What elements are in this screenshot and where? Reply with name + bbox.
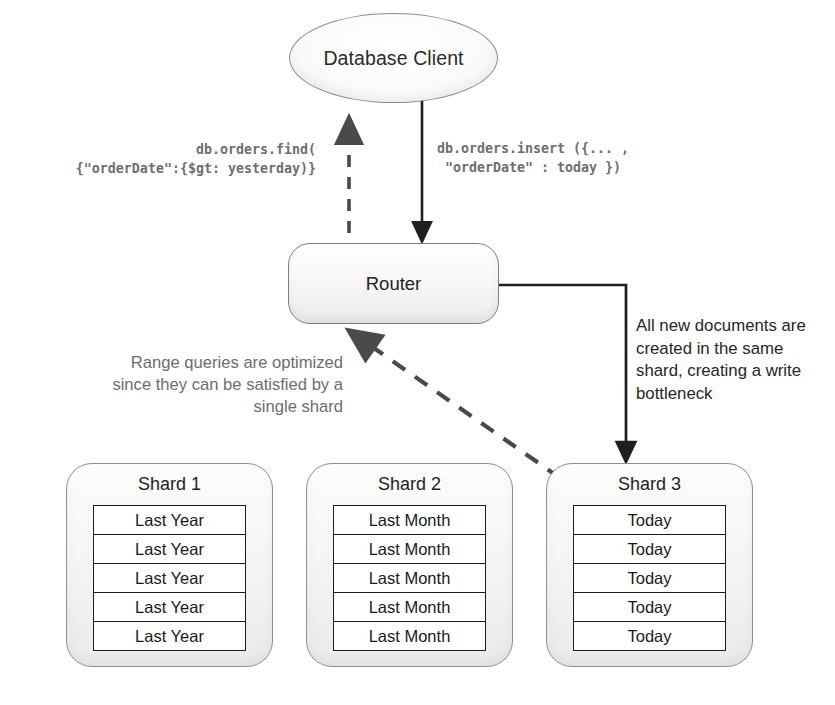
shard-2[interactable]: Shard 2 Last Month Last Month Last Month… — [306, 463, 513, 667]
node-database-client[interactable]: Database Client — [289, 13, 498, 103]
table-row: Last Month — [334, 593, 485, 622]
node-router[interactable]: Router — [288, 243, 499, 324]
annotation-range-queries: Range queries are optimized since they c… — [93, 352, 343, 419]
query-find-label: db.orders.find( {"orderDate":{$gt: yeste… — [0, 140, 316, 179]
query-insert-label: db.orders.insert ({... , "orderDate" : t… — [437, 139, 629, 178]
table-row: Last Month — [334, 535, 485, 564]
diagram-canvas: Database Client db.orders.find( {"orderD… — [0, 0, 835, 705]
router-label: Router — [366, 273, 422, 295]
shard-1[interactable]: Shard 1 Last Year Last Year Last Year La… — [66, 463, 273, 667]
shard-3[interactable]: Shard 3 Today Today Today Today Today — [546, 463, 753, 667]
table-row: Today — [574, 535, 725, 564]
table-row: Last Year — [94, 622, 245, 651]
annotation-write-bottleneck: All new documents are created in the sam… — [636, 315, 831, 405]
shard-3-table: Today Today Today Today Today — [573, 505, 726, 651]
shard-2-title: Shard 2 — [307, 474, 512, 495]
table-row: Last Year — [94, 506, 245, 535]
edge-router-to-shard3-write — [497, 285, 626, 452]
table-row: Today — [574, 564, 725, 593]
table-row: Last Year — [94, 564, 245, 593]
table-row: Today — [574, 593, 725, 622]
edge-shard3-to-router-read — [361, 339, 560, 478]
table-row: Today — [574, 506, 725, 535]
shard-1-table: Last Year Last Year Last Year Last Year … — [93, 505, 246, 651]
shard-2-table: Last Month Last Month Last Month Last Mo… — [333, 505, 486, 651]
table-row: Today — [574, 622, 725, 651]
shard-3-title: Shard 3 — [547, 474, 752, 495]
database-client-label: Database Client — [323, 47, 463, 70]
table-row: Last Year — [94, 593, 245, 622]
table-row: Last Month — [334, 622, 485, 651]
table-row: Last Month — [334, 564, 485, 593]
shard-1-title: Shard 1 — [67, 474, 272, 495]
table-row: Last Month — [334, 506, 485, 535]
table-row: Last Year — [94, 535, 245, 564]
